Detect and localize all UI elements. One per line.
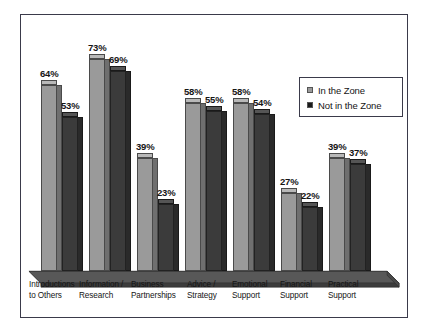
- category-label-emotional: Emotional Support: [232, 280, 282, 301]
- bar-introductions-not-in-the-zone: [62, 117, 78, 271]
- bar-front-face: [62, 117, 78, 271]
- bar-front-face: [185, 103, 201, 271]
- category-label-practical: Practical Support: [328, 280, 378, 301]
- value-label-information-in-the-zone: 73%: [88, 42, 106, 53]
- chart-legend: In the Zone Not in the Zone: [299, 77, 403, 117]
- bar-front-face: [206, 111, 222, 271]
- category-label-business: Business Partnerships: [131, 280, 185, 301]
- value-label-emotional-in-the-zone: 58%: [232, 86, 250, 97]
- value-label-financial-not-in-the-zone: 22%: [301, 190, 319, 201]
- bar-financial-not-in-the-zone: [302, 207, 318, 271]
- bar-front-face: [89, 59, 105, 271]
- legend-label-in-the-zone: In the Zone: [318, 85, 365, 96]
- bar-front-face: [302, 207, 318, 271]
- bar-information-in-the-zone: [89, 59, 105, 271]
- value-label-information-not-in-the-zone: 69%: [109, 54, 127, 65]
- bar-practical-not-in-the-zone: [350, 164, 366, 271]
- legend-swatch-icon: [307, 87, 313, 93]
- category-label-financial: Financial Support: [280, 280, 330, 301]
- bar-side-face: [222, 111, 227, 271]
- bar-front-face: [233, 103, 249, 271]
- bar-side-face: [366, 164, 371, 271]
- bar-side-face: [270, 114, 275, 271]
- value-label-financial-in-the-zone: 27%: [280, 176, 298, 187]
- bar-advice-in-the-zone: [185, 103, 201, 271]
- value-label-advice-in-the-zone: 58%: [184, 86, 202, 97]
- bar-side-face: [126, 71, 131, 271]
- bar-financial-in-the-zone: [281, 193, 297, 271]
- bar-business-in-the-zone: [137, 158, 153, 271]
- legend-item-not-in-the-zone: Not in the Zone: [307, 98, 402, 112]
- legend-swatch-icon: [307, 102, 313, 108]
- bar-front-face: [158, 204, 174, 271]
- value-label-advice-not-in-the-zone: 55%: [205, 94, 223, 105]
- bar-advice-not-in-the-zone: [206, 111, 222, 271]
- value-label-emotional-not-in-the-zone: 54%: [253, 97, 271, 108]
- category-label-introductions: Introductions to Others: [29, 280, 79, 301]
- value-label-practical-not-in-the-zone: 37%: [349, 147, 367, 158]
- category-label-information: Information / Research: [79, 280, 131, 301]
- bar-introductions-in-the-zone: [41, 85, 57, 271]
- bar-front-face: [329, 158, 345, 271]
- bar-emotional-in-the-zone: [233, 103, 249, 271]
- bar-chart-plot-area: 64% 53% 73% 69% 39%: [21, 15, 407, 317]
- bar-front-face: [137, 158, 153, 271]
- bar-front-face: [350, 164, 366, 271]
- bar-front-face: [41, 85, 57, 271]
- value-label-business-not-in-the-zone: 23%: [157, 187, 175, 198]
- value-label-introductions-in-the-zone: 64%: [40, 68, 58, 79]
- value-label-introductions-not-in-the-zone: 53%: [61, 100, 79, 111]
- bar-side-face: [78, 117, 83, 271]
- bar-front-face: [110, 71, 126, 271]
- bar-front-face: [254, 114, 270, 271]
- legend-label-not-in-the-zone: Not in the Zone: [318, 100, 381, 111]
- bar-side-face: [318, 207, 323, 271]
- bar-information-not-in-the-zone: [110, 71, 126, 271]
- value-label-practical-in-the-zone: 39%: [328, 141, 346, 152]
- bar-practical-in-the-zone: [329, 158, 345, 271]
- category-label-advice: Advice / Strategy: [187, 280, 237, 301]
- bar-side-face: [174, 204, 179, 271]
- value-label-business-in-the-zone: 39%: [136, 141, 154, 152]
- chart-frame: 64% 53% 73% 69% 39%: [20, 14, 408, 318]
- bar-emotional-not-in-the-zone: [254, 114, 270, 271]
- legend-item-in-the-zone: In the Zone: [307, 83, 402, 97]
- bar-business-not-in-the-zone: [158, 204, 174, 271]
- bar-front-face: [281, 193, 297, 271]
